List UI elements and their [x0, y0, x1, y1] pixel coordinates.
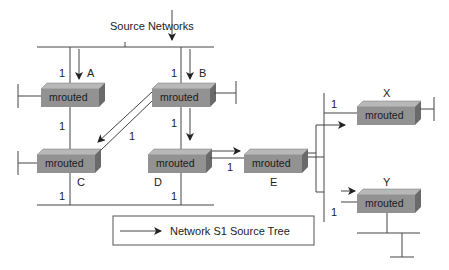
- router-a-label: A: [87, 67, 95, 79]
- router-c-label: C: [77, 176, 85, 188]
- svg-text:mrouted: mrouted: [160, 91, 199, 103]
- svg-text:1: 1: [59, 190, 65, 202]
- svg-text:mrouted: mrouted: [45, 157, 84, 169]
- svg-text:mrouted: mrouted: [156, 157, 195, 169]
- router-e-label: E: [270, 176, 277, 188]
- svg-text:1: 1: [331, 206, 337, 218]
- router-y-label: Y: [383, 176, 391, 188]
- svg-text:mrouted: mrouted: [365, 109, 404, 121]
- svg-text:1: 1: [331, 98, 337, 110]
- router-d-label: D: [154, 176, 162, 188]
- svg-text:1: 1: [59, 120, 65, 132]
- svg-text:1: 1: [171, 67, 177, 79]
- network-diagram: Source Networks 1 A mrouted 1 1 B mroute…: [0, 0, 449, 270]
- router-x-label: X: [383, 87, 391, 99]
- svg-text:1: 1: [59, 67, 65, 79]
- b-to-c-arrow: [98, 92, 152, 142]
- svg-text:1: 1: [129, 130, 135, 142]
- svg-text:mrouted: mrouted: [252, 157, 291, 169]
- source-networks-label: Source Networks: [110, 20, 194, 32]
- svg-text:mrouted: mrouted: [365, 197, 404, 209]
- svg-text:mrouted: mrouted: [49, 91, 88, 103]
- svg-text:1: 1: [227, 161, 233, 173]
- router-b-label: B: [199, 67, 206, 79]
- legend-label: Network S1 Source Tree: [170, 225, 290, 237]
- svg-text:1: 1: [171, 117, 177, 129]
- svg-text:1: 1: [171, 190, 177, 202]
